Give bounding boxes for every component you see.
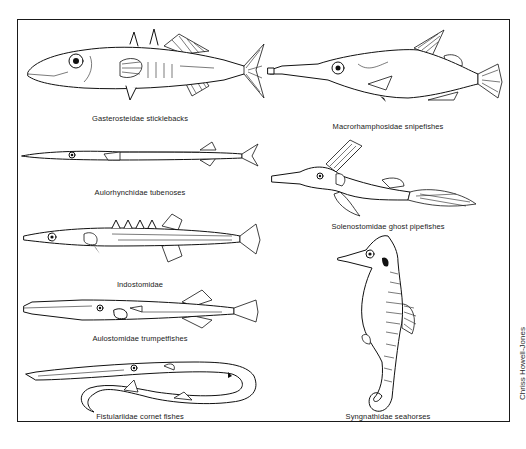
ghost-pipefish-illustration bbox=[270, 136, 480, 216]
tubenose-illustration bbox=[20, 140, 260, 170]
snipefish-illustration bbox=[268, 28, 508, 108]
label-macrorhamphosidae: Macrorhamphosidae snipefishes bbox=[333, 122, 444, 131]
cornetfish-illustration bbox=[24, 350, 264, 415]
label-indostomidae: Indostomidae bbox=[117, 280, 163, 289]
seahorse-illustration bbox=[336, 228, 456, 418]
indostomidae-illustration bbox=[22, 212, 262, 267]
label-gasterosteidae: Gasterosteidae sticklebacks bbox=[92, 114, 188, 123]
illustrator-credit: Chriss Howell-Jones bbox=[518, 327, 526, 400]
label-syngnathidae: Syngnathidae seahorses bbox=[346, 412, 431, 421]
stickleback-illustration bbox=[24, 26, 264, 106]
label-fistulariidae: Fistulariidae cornet fishes bbox=[96, 412, 184, 421]
label-aulostomidae: Aulostomidae trumpetfishes bbox=[92, 334, 187, 343]
trumpetfish-illustration bbox=[22, 290, 262, 330]
label-aulorhynchidae: Aulorhynchidae tubenoses bbox=[95, 188, 186, 197]
